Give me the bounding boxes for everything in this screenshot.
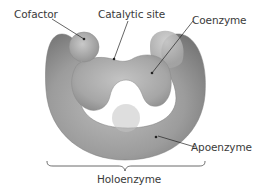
holoenzyme-bracket (47, 161, 205, 171)
enzyme-illustration (0, 0, 260, 195)
cofactor-ball (69, 32, 99, 62)
apoenzyme-label: Apoenzyme (191, 141, 252, 153)
holoenzyme-label: Holoenzyme (97, 173, 161, 185)
catalytic-region (72, 55, 172, 110)
holoenzyme-diagram: Cofactor Catalytic site Coenzyme Apoenzy… (0, 0, 260, 195)
coenzyme-label: Coenzyme (192, 14, 246, 26)
catalytic-site-label: Catalytic site (98, 8, 165, 20)
cofactor-label: Cofactor (14, 8, 58, 20)
